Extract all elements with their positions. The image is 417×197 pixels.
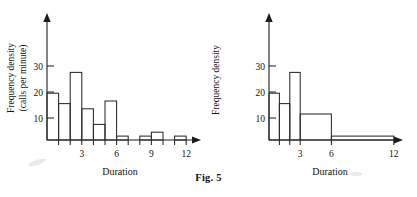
bar-left-8 [140,136,152,140]
x-tick-label-6-left: 6 [114,149,119,159]
y-axis-label-right: Frequency density [211,45,221,115]
x-tick-label-9-left: 9 [149,149,154,159]
chart-panel-right: Frequency density 10 20 30 [208,0,417,197]
chart-panel-left: Frequency density (calls per minute) 10 … [0,0,208,197]
bar-left-4 [93,124,105,140]
bar-left-2 [70,72,82,140]
y-tick-label-30-right: 30 [256,62,266,72]
y-tick-label-10-right: 10 [256,114,266,124]
y-ticks-left [47,66,54,118]
x-ticks-right [279,140,393,145]
histogram-right: Frequency density 10 20 30 [208,0,417,197]
y-tick-label-20-left: 20 [34,88,44,98]
x-ticks-left [59,140,187,145]
y-axis-label-left-line2: (calls per minute) [18,44,29,111]
x-tick-label-3-right: 3 [298,149,303,159]
bar-right-0 [269,93,279,140]
bar-right-4 [331,136,393,140]
bar-right-2 [290,72,300,140]
y-tick-label-30-left: 30 [34,62,44,72]
bar-left-5 [105,101,117,140]
bars-right [269,72,394,140]
y-tick-label-10-left: 10 [34,114,44,124]
bar-left-1 [59,104,71,140]
histogram-left: Frequency density (calls per minute) 10 … [0,0,208,197]
bar-left-6 [117,136,129,140]
x-tick-label-6-right: 6 [329,149,334,159]
y-tick-label-20-right: 20 [256,88,266,98]
x-tick-label-12-left: 12 [181,149,191,159]
figure-caption: Fig. 5 [0,172,417,183]
bar-left-0 [47,93,59,140]
bar-left-3 [82,109,94,140]
x-tick-label-3-left: 3 [79,149,84,159]
bar-right-3 [300,114,331,140]
y-axis-label-left-line1: Frequency density [6,43,16,113]
x-tick-label-12-right: 12 [389,149,399,159]
bar-left-9 [151,132,163,140]
bar-right-1 [279,104,289,140]
y-ticks-right [269,66,276,118]
bars-left [47,72,186,140]
bar-left-11 [175,136,187,140]
figure-container: Frequency density (calls per minute) 10 … [0,0,417,197]
